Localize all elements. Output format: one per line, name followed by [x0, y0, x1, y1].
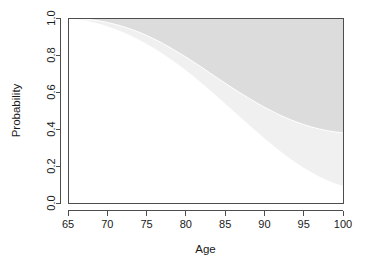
y-tick-label: 0.0: [45, 195, 57, 210]
y-tick-label: 0.2: [45, 158, 57, 173]
x-tick-label: 80: [180, 218, 192, 230]
x-axis-title: Age: [195, 243, 215, 255]
y-tick-label: 0.6: [45, 84, 57, 99]
x-tick-label: 75: [140, 218, 152, 230]
y-tick-label: 0.8: [45, 47, 57, 62]
x-tick-label: 95: [298, 218, 310, 230]
x-tick-label: 65: [62, 218, 74, 230]
y-tick-label: 1.0: [45, 10, 57, 25]
probability-area-chart: 65707580859095100 0.00.20.40.60.81.0 Age…: [0, 0, 368, 264]
x-tick-label: 90: [258, 218, 270, 230]
x-tick-label: 85: [219, 218, 231, 230]
x-tick-label: 100: [334, 218, 352, 230]
x-tick-label: 70: [101, 218, 113, 230]
y-tick-label: 0.4: [45, 121, 57, 136]
chart-figure: 65707580859095100 0.00.20.40.60.81.0 Age…: [0, 0, 368, 264]
y-axis-title: Probability: [10, 83, 22, 137]
